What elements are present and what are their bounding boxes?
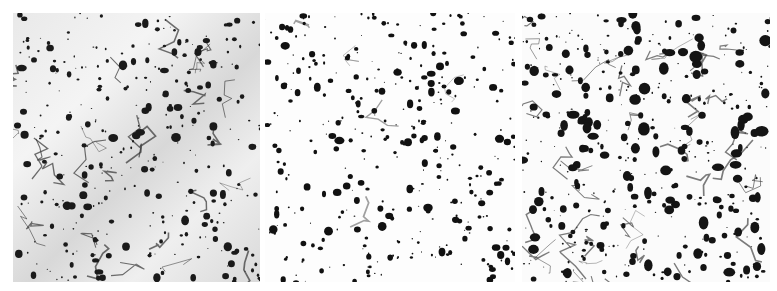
particle-field [265, 13, 515, 282]
particle-field [13, 13, 260, 282]
micrograph-panel-2 [265, 13, 515, 282]
micrograph-panel-1 [13, 13, 260, 282]
micrograph-panel-3 [522, 13, 770, 282]
particle-field [522, 13, 770, 282]
